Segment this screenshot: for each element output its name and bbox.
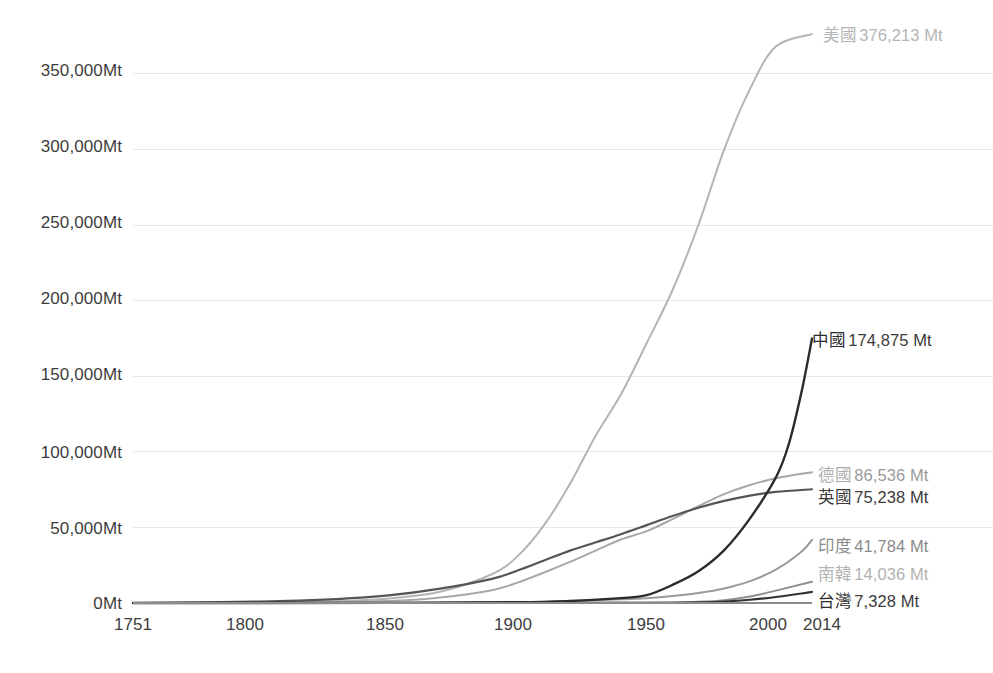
cumulative-co2-line-chart: 350,000Mt 300,000Mt 250,000Mt 200,000Mt … — [0, 0, 993, 673]
series-label-tw-value: 7,328 Mt — [854, 592, 919, 610]
x-tick-label-1850: 1850 — [355, 615, 415, 635]
series-lines — [133, 34, 812, 603]
series-line-美國 — [133, 34, 812, 603]
series-label-uk-value: 75,238 Mt — [854, 488, 928, 506]
series-label-in-value: 41,784 Mt — [854, 537, 928, 555]
y-tick-label-350000: 350,000Mt — [2, 61, 122, 81]
x-tick-label-2014: 2014 — [792, 615, 852, 635]
series-label-uk-name: 英國 — [818, 488, 852, 506]
series-label-in-name: 印度 — [818, 537, 852, 555]
series-line-英國 — [133, 489, 812, 603]
x-tick-label-2000: 2000 — [738, 615, 798, 635]
series-label-tw-name: 台灣 — [818, 592, 852, 610]
series-label-kr-name: 南韓 — [818, 565, 852, 583]
x-tick-label-1950: 1950 — [616, 615, 676, 635]
y-tick-label-300000: 300,000Mt — [2, 137, 122, 157]
y-tick-label-250000: 250,000Mt — [2, 213, 122, 233]
series-label-us: 美國376,213 Mt — [823, 22, 943, 46]
x-tick-label-1900: 1900 — [483, 615, 543, 635]
series-label-cn-name: 中國 — [812, 331, 846, 349]
x-tick-label-1800: 1800 — [215, 615, 275, 635]
y-tick-label-100000: 100,000Mt — [2, 443, 122, 463]
series-label-cn-value: 174,875 Mt — [848, 331, 932, 349]
y-tick-label-200000: 200,000Mt — [2, 289, 122, 309]
y-tick-label-50000: 50,000Mt — [2, 519, 122, 539]
series-label-tw: 台灣7,328 Mt — [818, 588, 919, 612]
series-label-uk: 英國75,238 Mt — [818, 484, 928, 508]
series-line-南韓 — [133, 582, 812, 603]
x-tick-label-1751: 1751 — [103, 615, 163, 635]
series-label-de: 德國86,536 Mt — [818, 462, 928, 486]
series-label-de-name: 德國 — [818, 466, 852, 484]
series-label-us-name: 美國 — [823, 26, 857, 44]
series-label-kr: 南韓14,036 Mt — [818, 561, 928, 585]
series-label-us-value: 376,213 Mt — [859, 26, 943, 44]
series-line-中國 — [133, 339, 812, 603]
series-label-cn: 中國174,875 Mt — [812, 327, 932, 351]
gridlines — [133, 74, 993, 528]
y-tick-label-0: 0Mt — [2, 594, 122, 614]
series-label-kr-value: 14,036 Mt — [854, 565, 928, 583]
series-label-in: 印度41,784 Mt — [818, 533, 928, 557]
y-tick-label-150000: 150,000Mt — [2, 365, 122, 385]
series-label-de-value: 86,536 Mt — [854, 466, 928, 484]
